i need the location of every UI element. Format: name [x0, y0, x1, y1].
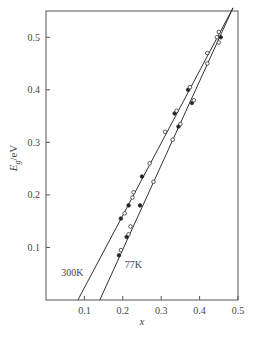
y-tick-label: 0.3	[28, 137, 41, 148]
data-point-300K	[127, 204, 131, 208]
data-point-77K	[192, 99, 196, 103]
y-tick-label: 0.1	[28, 242, 41, 253]
x-tick-label: 0.2	[117, 305, 130, 316]
x-axis-ticks: 0.10.20.30.40.5	[78, 296, 244, 316]
y-tick-label: 0.4	[28, 84, 41, 95]
x-tick-label: 0.5	[232, 305, 245, 316]
data-points	[117, 30, 222, 257]
y-axis-title-unit: /eV	[7, 145, 19, 161]
data-point-77K	[127, 233, 131, 237]
data-point-77K	[179, 122, 183, 126]
annotation-label: 77K	[125, 259, 143, 270]
y-tick-label: 0.5	[28, 32, 41, 43]
fit-line-300K	[78, 8, 233, 300]
y-tick-label: 0.2	[28, 189, 41, 200]
data-point-300K	[188, 85, 192, 89]
data-point-300K	[205, 51, 209, 55]
data-point-300K	[123, 212, 127, 216]
x-tick-label: 0.4	[193, 305, 206, 316]
x-axis-title: x	[139, 315, 145, 327]
data-point-77K	[219, 35, 223, 39]
x-tick-label: 0.3	[155, 305, 168, 316]
data-point-300K	[163, 130, 167, 134]
data-point-77K	[171, 138, 175, 142]
x-tick-label: 0.1	[78, 305, 91, 316]
chart: 0.10.20.30.40.5 0.10.20.30.40.5 300K77K …	[0, 0, 254, 342]
data-point-300K	[175, 109, 179, 113]
data-point-77K	[129, 225, 133, 229]
data-point-300K	[217, 30, 221, 34]
plot-frame	[46, 11, 238, 300]
data-point-77K	[119, 248, 123, 252]
data-point-300K	[148, 162, 152, 166]
fit-lines	[78, 8, 233, 300]
annotations: 300K77K	[61, 259, 142, 278]
annotation-label: 300K	[61, 267, 84, 278]
data-point-77K	[217, 41, 221, 45]
data-point-300K	[131, 196, 135, 200]
data-point-77K	[138, 204, 142, 208]
data-point-77K	[152, 180, 156, 184]
data-point-300K	[119, 217, 123, 221]
data-point-300K	[140, 175, 144, 179]
data-point-77K	[117, 254, 121, 258]
y-axis-ticks: 0.10.20.30.40.5	[28, 32, 51, 253]
y-axis-title: Eg/eV	[7, 145, 22, 173]
data-point-300K	[215, 35, 219, 39]
data-point-300K	[132, 190, 136, 194]
data-point-77K	[205, 62, 209, 66]
